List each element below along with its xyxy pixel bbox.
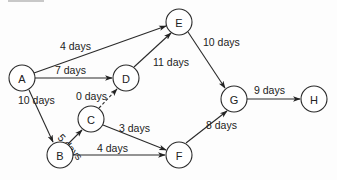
node-label-a: A [18,73,26,85]
diagram-canvas: 4 days 7 days 10 days 5 days 0 days 3 da… [0,0,337,180]
node-c: C [78,106,104,132]
node-label-d: D [122,73,130,85]
cropped-header-text [8,0,44,2]
edge-label-c-d: 0 days [76,90,107,102]
edge-label-c-f: 3 days [119,122,150,134]
edge-label-g-h: 9 days [254,84,285,96]
node-label-g: G [230,94,239,106]
edge-label-f-g: 8 days [206,119,237,131]
edge-label-a-e: 4 days [60,40,91,52]
node-g: G [221,86,247,112]
node-label-b: B [56,150,63,162]
node-label-f: F [176,150,183,162]
edge-label-d-e: 11 days [153,56,189,68]
node-d: D [113,65,139,91]
node-label-c: C [87,114,95,126]
node-a: A [9,65,35,91]
edge-label-b-f: 4 days [97,142,128,154]
edge-label-a-b: 10 days [18,94,55,106]
edge-label-e-g: 10 days [203,36,240,48]
node-b: B [47,142,73,168]
node-h: H [301,86,327,112]
node-e: E [166,9,192,35]
node-f: F [166,142,192,168]
node-label-e: E [175,17,182,29]
node-label-h: H [310,94,318,106]
edge-label-a-d: 7 days [55,64,86,76]
edge-a-e [34,26,166,73]
network-diagram: 4 days 7 days 10 days 5 days 0 days 3 da… [0,0,337,180]
